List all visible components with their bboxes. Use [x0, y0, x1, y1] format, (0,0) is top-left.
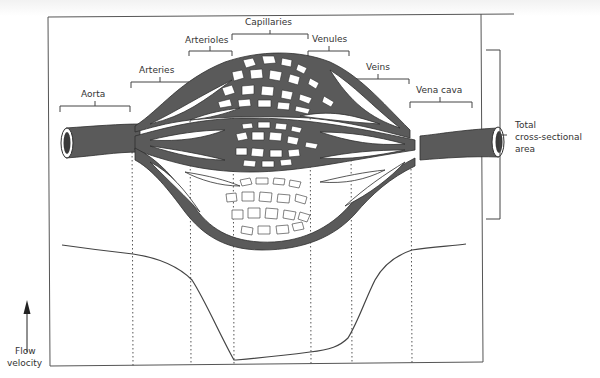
circulation-diagram: Aorta Arteries Arterioles Capillaries Ve… [0, 0, 600, 378]
aorta-opening-icon [61, 128, 73, 158]
bracket-label-line2: cross-sectional [515, 132, 582, 142]
label-arterioles: Arterioles [185, 35, 229, 45]
y-axis-label-line2: velocity [7, 358, 43, 368]
bracket-label-line1: Total [514, 120, 536, 130]
y-axis-label-line1: Flow [15, 346, 36, 356]
flow-velocity-curve [62, 244, 466, 360]
label-arteries: Arteries [139, 65, 175, 75]
label-aorta: Aorta [81, 89, 105, 99]
label-vena-cava: Vena cava [416, 85, 462, 95]
aorta-vessel [66, 124, 140, 158]
vena-cava-vessel [420, 128, 499, 160]
label-veins: Veins [366, 62, 390, 72]
up-arrow-icon [24, 300, 31, 352]
vena-cava-opening-icon [492, 127, 504, 157]
label-capillaries: Capillaries [245, 17, 292, 27]
label-venules: Venules [312, 34, 347, 44]
bracket-label-line3: area [515, 144, 535, 154]
